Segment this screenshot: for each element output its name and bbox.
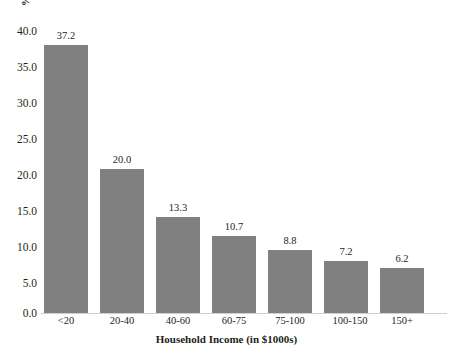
y-axis-tick-label: 0.0: [0, 308, 37, 320]
y-axis-tick-label: 10.0: [0, 242, 37, 254]
x-axis-tick-label: 75-100: [268, 316, 312, 327]
bar: [44, 45, 88, 313]
y-axis-tick-label: 5.0: [0, 278, 37, 290]
bar-value-label: 8.8: [283, 236, 296, 247]
x-axis-tick-label: 150+: [380, 316, 424, 327]
bar-group: 37.2: [44, 31, 88, 314]
bar: [100, 169, 144, 313]
bar: [156, 217, 200, 313]
x-axis-line: [41, 313, 447, 314]
bar-group: 10.7: [212, 222, 256, 314]
y-axis-tick-label: 25.0: [0, 134, 37, 146]
x-axis-tick-label: 40-60: [156, 316, 200, 327]
bar-group: 13.3: [156, 203, 200, 314]
bar-value-label: 7.2: [339, 247, 352, 258]
bar: [324, 261, 368, 313]
y-axis-tick-label: 15.0: [0, 206, 37, 218]
x-axis-tick-label: 100-150: [320, 316, 380, 327]
x-axis-tick-label: <20: [44, 316, 88, 327]
bar-group: 7.2: [324, 247, 368, 314]
bar-value-label: 37.2: [57, 31, 75, 42]
plot-area: 37.2 20.0 13.3 10.7 8.8 7.2 6.2: [41, 25, 445, 313]
bar-value-label: 13.3: [169, 203, 187, 214]
x-axis-tick-label: 20-40: [100, 316, 144, 327]
y-axis-tick-label: 35.0: [0, 62, 37, 74]
bar-value-label: 20.0: [113, 155, 131, 166]
bar: [380, 268, 424, 313]
x-axis-tick-label: 60-75: [212, 316, 256, 327]
bar-group: 6.2: [380, 254, 424, 314]
y-axis-tick-label: 40.0: [0, 26, 37, 38]
x-axis-title: Household Income (in $1000s): [0, 334, 453, 345]
bar-group: 8.8: [268, 236, 312, 314]
bar-chart: % 40.0 35.0 30.0 25.0 20.0 15.0 10.0 5.0…: [0, 0, 453, 358]
bar: [212, 236, 256, 313]
bar-group: 20.0: [100, 155, 144, 314]
y-axis-tick-label: 20.0: [0, 170, 37, 182]
bar: [268, 250, 312, 313]
bar-value-label: 10.7: [225, 222, 243, 233]
bar-value-label: 6.2: [395, 254, 408, 265]
y-axis-tick-label: 30.0: [0, 98, 37, 110]
y-axis-title: %: [20, 0, 31, 6]
